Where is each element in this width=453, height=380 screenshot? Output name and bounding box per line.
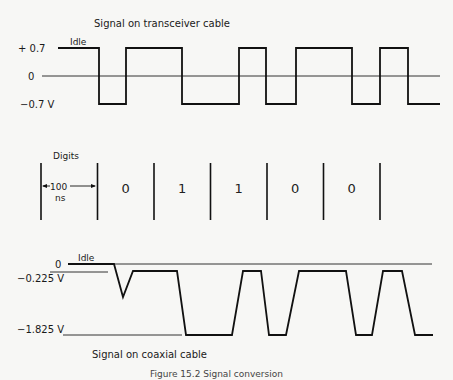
top-y-label-high: + 0.7 xyxy=(18,43,45,54)
period-value: 100 xyxy=(50,182,67,192)
digit-dividers xyxy=(41,163,380,220)
digit-label: 0 xyxy=(122,181,130,196)
digit-label: 0 xyxy=(291,181,299,196)
figure-caption: Figure 15.2 Signal conversion xyxy=(150,369,283,379)
period-unit: ns xyxy=(55,193,66,203)
digit-label: 0 xyxy=(348,181,356,196)
period-arrowhead-right-icon xyxy=(91,184,96,188)
top-panel-title: Signal on transceiver cable xyxy=(94,18,230,29)
top-y-label-zero: 0 xyxy=(28,71,34,82)
bottom-panel-title: Signal on coaxial cable xyxy=(92,349,207,360)
bottom-idle-label: Idle xyxy=(78,253,95,263)
coaxial-waveform xyxy=(68,264,433,335)
top-y-label-low: −0.7 V xyxy=(20,99,54,110)
bottom-y-label-low: −1.825 V xyxy=(17,324,64,335)
digits-title: Digits xyxy=(53,151,79,161)
digit-label: 1 xyxy=(178,181,186,196)
digit-label: 1 xyxy=(235,181,243,196)
bottom-y-label-high: −0.225 V xyxy=(17,273,64,284)
signal-encoding-diagram: Signal on transceiver cable Idle + 0.7 0… xyxy=(0,0,453,380)
top-idle-label: Idle xyxy=(70,37,87,47)
period-arrowhead-left-icon xyxy=(42,184,47,188)
bottom-y-label-zero: 0 xyxy=(55,259,61,270)
digit-labels: 01100 xyxy=(122,181,356,196)
